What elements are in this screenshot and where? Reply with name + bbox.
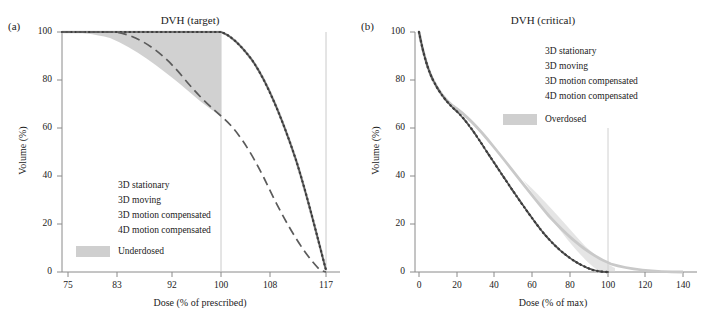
panel-b-xtick-80: 80 — [555, 280, 585, 290]
panel-b-ytick-80: 80 — [373, 74, 405, 84]
panel-a-xtick-100: 100 — [204, 280, 238, 290]
panel-a-xtick-117: 117 — [309, 280, 343, 290]
panel-b-xtick-40: 40 — [479, 280, 509, 290]
panel-b-x-axis-label: Dose (% of max) — [473, 297, 633, 308]
legend-label-3d-stationary: 3D stationary — [118, 178, 169, 193]
panel-b: (b) DVH (critical) — [353, 0, 707, 329]
panel-a-xtick-108: 108 — [253, 280, 287, 290]
legend-label-3d-motion-compensated: 3D motion compensated — [118, 208, 211, 223]
panel-b-ytick-20: 20 — [373, 218, 405, 228]
panel-a-x-axis-label: Dose (% of prescribed) — [120, 297, 280, 308]
panel-b-y-ticks — [410, 32, 415, 272]
legend-label-3d-moving: 3D moving — [545, 59, 588, 74]
panel-a-x-ticks — [68, 272, 326, 277]
panel-a-xtick-75: 75 — [53, 280, 83, 290]
legend-item-3d-stationary: 3D stationary — [503, 44, 703, 59]
panel-b-ytick-0: 0 — [373, 266, 405, 276]
legend-label-3d-stationary: 3D stationary — [545, 44, 596, 59]
legend-item-3d-motion-compensated: 3D motion compensated — [503, 74, 703, 89]
panel-b-xtick-0: 0 — [404, 280, 434, 290]
legend-item-4d-motion-compensated: 4D motion compensated — [503, 89, 703, 104]
panel-b-x-ticks — [419, 272, 683, 277]
legend-item-3d-stationary: 3D stationary — [76, 178, 276, 193]
panel-a-underdosed-fill — [62, 32, 221, 116]
panel-a-ytick-100: 100 — [20, 26, 52, 36]
panel-a-y-axis-label: Volume (%) — [17, 106, 28, 196]
legend-label-3d-motion-compensated: 3D motion compensated — [545, 74, 638, 89]
panel-b-xtick-100: 100 — [591, 280, 625, 290]
panel-a-xtick-92: 92 — [157, 280, 187, 290]
panel-a-xtick-83: 83 — [102, 280, 132, 290]
legend-label-underdosed: Underdosed — [118, 244, 164, 259]
panel-a-legend: 3D stationary 3D moving 3D motion compen… — [76, 178, 276, 259]
panel-a-ytick-0: 0 — [20, 266, 52, 276]
legend-swatch-underdosed — [76, 246, 110, 257]
legend-item-4d-motion-compensated: 4D motion compensated — [76, 223, 276, 238]
panel-b-xtick-140: 140 — [666, 280, 700, 290]
panel-b-xtick-60: 60 — [517, 280, 547, 290]
panel-b-y-axis-label: Volume (%) — [370, 106, 381, 196]
legend-label-4d-motion-compensated: 4D motion compensated — [545, 89, 638, 104]
legend-swatch-overdosed — [503, 114, 537, 125]
panel-b-xtick-120: 120 — [628, 280, 662, 290]
legend-item-3d-moving: 3D moving — [76, 193, 276, 208]
panel-a: (a) DVH (target) — [0, 0, 353, 329]
panel-a-ytick-80: 80 — [20, 74, 52, 84]
legend-label-overdosed: Overdosed — [545, 112, 586, 127]
legend-item-underdosed: Underdosed — [76, 244, 276, 259]
panel-b-legend: 3D stationary 3D moving 3D motion compen… — [503, 44, 703, 127]
legend-item-3d-moving: 3D moving — [503, 59, 703, 74]
panel-a-y-ticks — [57, 32, 62, 272]
figure-container: (a) DVH (target) — [0, 0, 707, 329]
legend-item-overdosed: Overdosed — [503, 112, 703, 127]
legend-label-3d-moving: 3D moving — [118, 193, 161, 208]
legend-label-4d-motion-compensated: 4D motion compensated — [118, 223, 211, 238]
panel-b-xtick-20: 20 — [442, 280, 472, 290]
legend-item-3d-motion-compensated: 3D motion compensated — [76, 208, 276, 223]
panel-a-ytick-20: 20 — [20, 218, 52, 228]
panel-b-ytick-100: 100 — [373, 26, 405, 36]
